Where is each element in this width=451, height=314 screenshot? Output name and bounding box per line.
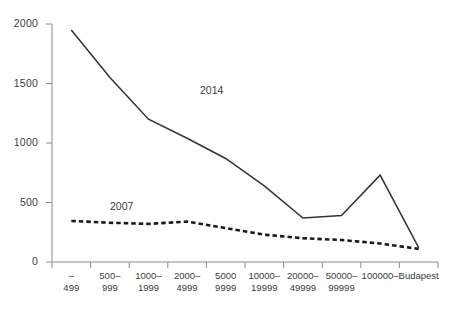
y-axis-ticks bbox=[46, 24, 52, 262]
series-annotation-2007: 2007 bbox=[110, 200, 133, 212]
y-tick-label-1000: 1000 bbox=[4, 136, 38, 148]
x-axis-ticks bbox=[52, 262, 438, 268]
y-tick-label-500: 500 bbox=[4, 196, 38, 208]
y-tick-label-0: 0 bbox=[4, 255, 38, 267]
series-line-2007 bbox=[71, 221, 418, 249]
y-tick-label-2000: 2000 bbox=[4, 17, 38, 29]
x-tick-label-9: Budapest bbox=[386, 270, 451, 282]
y-tick-label-1500: 1500 bbox=[4, 77, 38, 89]
series-line-2014 bbox=[71, 30, 418, 248]
line-chart: 2000150010005000 –499500–9991000–1999200… bbox=[0, 0, 451, 314]
chart-series-group bbox=[71, 30, 418, 249]
chart-plot-area bbox=[0, 0, 451, 314]
x-tick-label-line1: Budapest bbox=[386, 270, 451, 282]
series-annotation-2014: 2014 bbox=[200, 84, 223, 96]
x-tick-label-line2: 99999 bbox=[309, 282, 374, 294]
